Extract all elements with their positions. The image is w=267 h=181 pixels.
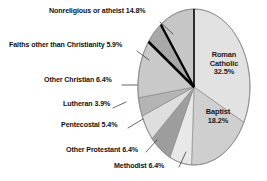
leader-line-lutheran bbox=[113, 102, 126, 108]
label-nonreligious-or-atheist: Nonreligious or atheist 14.8% bbox=[49, 7, 145, 15]
label-roman-catholic: Roman Catholic 32.5% bbox=[198, 51, 250, 77]
label-other-christian: Other Christian 6.4% bbox=[44, 76, 112, 84]
label-roman-catholic-line3: 32.5% bbox=[198, 68, 250, 77]
label-methodist: Methodist 6.4% bbox=[114, 162, 164, 170]
leader-line-pentecostal bbox=[128, 119, 143, 128]
pie-chart: Nonreligious or atheist 14.8% Faiths oth… bbox=[0, 0, 267, 181]
label-baptist: Baptist 18.2% bbox=[196, 108, 240, 125]
label-lutheran: Lutheran 3.9% bbox=[63, 100, 110, 108]
label-faiths-other-than-christianity: Faiths other than Christianity 5.9% bbox=[9, 41, 122, 49]
leader-line-other-protestant bbox=[146, 140, 157, 152]
label-pentecostal: Pentecostal 5.4% bbox=[61, 121, 117, 129]
label-other-protestant: Other Protestant 6.4% bbox=[66, 146, 138, 154]
label-baptist-line2: 18.2% bbox=[196, 117, 240, 126]
